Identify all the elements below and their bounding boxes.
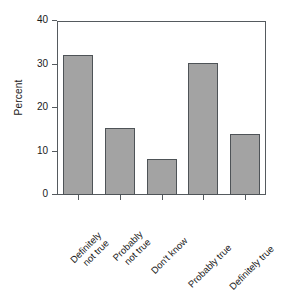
x-tick-mark [245, 195, 246, 200]
bar-slot [147, 21, 177, 195]
y-tick-label: 30 [37, 58, 48, 69]
x-tick-label-line: Probably true [186, 242, 234, 290]
bar-slot [63, 21, 93, 195]
x-tick-mark [203, 195, 204, 200]
x-tick-mark [120, 195, 121, 200]
x-tick-label-text: Don't know [148, 235, 189, 276]
x-tick-label-text: Probablynot true [110, 229, 152, 271]
bar [230, 134, 260, 195]
y-tick-label: 40 [37, 14, 48, 25]
x-tick-label-text: Definitelynot true [68, 230, 111, 273]
x-tick-label-text: Definitely true [227, 243, 276, 292]
x-tick-label-line: Don't know [148, 235, 189, 276]
x-tick-mark [78, 195, 79, 200]
x-tick-label-line: Definitely true [227, 243, 276, 292]
y-tick-label: 10 [37, 145, 48, 156]
bar [147, 159, 177, 195]
x-tick-mark [162, 195, 163, 200]
bar-slot [188, 21, 218, 195]
x-tick-label-text: Probably true [186, 242, 234, 290]
bar-slot [105, 21, 135, 195]
y-tick-label: 20 [37, 101, 48, 112]
y-tick-label: 0 [42, 188, 48, 199]
bars-layer [57, 21, 266, 195]
y-axis-title-text: Percent [14, 80, 25, 116]
y-axis-title: Percent [10, 0, 28, 195]
bar [188, 63, 218, 195]
bar-slot [230, 21, 260, 195]
bar [105, 128, 135, 195]
bar [63, 55, 93, 196]
